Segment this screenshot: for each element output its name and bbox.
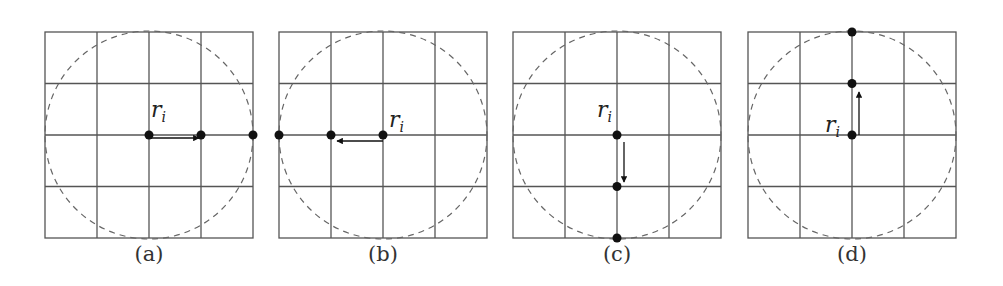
ri-label: ri xyxy=(389,107,404,135)
caption-b: (b) xyxy=(353,242,413,266)
caption-c: (c) xyxy=(587,242,647,266)
point xyxy=(197,131,206,140)
point xyxy=(848,79,857,88)
ri-label: ri xyxy=(151,97,166,125)
point-ri xyxy=(848,131,857,140)
ri-label: ri xyxy=(825,112,840,140)
point-ri xyxy=(613,131,622,140)
panel-d: ri xyxy=(748,28,956,240)
point xyxy=(327,131,336,140)
panel-b: ri xyxy=(275,31,488,239)
ri-label: ri xyxy=(597,97,612,125)
panel-c: ri xyxy=(513,31,721,243)
point xyxy=(613,182,622,191)
point xyxy=(275,131,284,140)
panel-a: ri xyxy=(45,31,258,239)
caption-a: (a) xyxy=(119,242,179,266)
point-ri xyxy=(379,131,388,140)
caption-d: (d) xyxy=(822,242,882,266)
point xyxy=(249,131,258,140)
point xyxy=(848,28,857,37)
point-ri xyxy=(145,131,154,140)
